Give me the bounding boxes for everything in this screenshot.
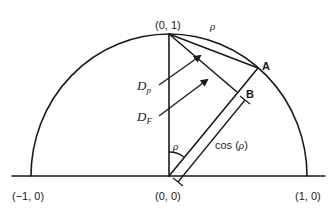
label-arc-rho: ρ (209, 20, 215, 32)
label-left-point: (−1, 0) (12, 190, 44, 202)
cos-tick-bottom (173, 178, 183, 186)
diagram-canvas: (0, 1) ρ A B Dp DF ρ cos (ρ) (−1, 0) (0,… (0, 0, 332, 209)
label-point-a: A (262, 60, 270, 72)
label-right-point: (1, 0) (295, 190, 321, 202)
arrow-dp-icon (159, 56, 200, 85)
chord-top-to-a (169, 34, 258, 68)
radius-to-a (169, 68, 258, 176)
label-origin: (0, 0) (155, 190, 181, 202)
label-angle-rho: ρ (172, 140, 178, 152)
label-top-point: (0, 1) (155, 19, 181, 31)
angle-arc-rho (169, 152, 184, 157)
arrow-df-icon (159, 80, 207, 116)
label-dp: Dp (136, 78, 151, 95)
label-cos-rho: cos (ρ) (215, 139, 248, 151)
label-df: DF (136, 109, 152, 126)
label-point-b: B (246, 88, 254, 100)
